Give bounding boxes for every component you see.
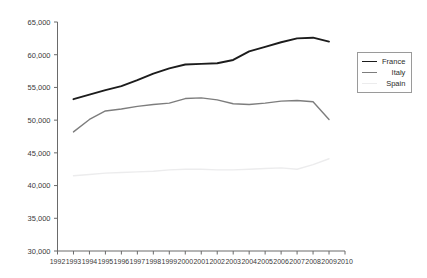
y-tick-label: 65,000 [28,18,51,27]
y-tick-label: 55,000 [28,83,51,92]
x-tick-label: 2001 [193,258,209,265]
chart-legend: FranceItalySpain [357,52,412,93]
chart-axes [58,22,346,251]
legend-swatch-icon [362,72,377,73]
y-tick-label: 60,000 [28,51,51,60]
legend-item-france[interactable]: France [362,56,405,67]
legend-item-label: Spain [382,78,405,89]
line-chart: 30,00035,00040,00045,00050,00055,00060,0… [0,0,427,278]
legend-item-label: France [382,56,405,67]
legend-item-label: Italy [382,67,405,78]
x-tick-label: 1999 [162,258,178,265]
legend-swatch-icon [362,83,377,84]
x-tick-label: 2008 [305,258,321,265]
legend-swatch-icon [362,61,377,62]
x-tick-label: 2010 [337,258,353,265]
x-tick-label: 1992 [50,258,66,265]
y-tick-label: 30,000 [28,247,51,256]
series-line-france [73,38,329,100]
x-tick-label: 2007 [289,258,305,265]
chart-plot-area: 30,00035,00040,00045,00050,00055,00060,0… [0,0,427,278]
y-tick-label: 45,000 [28,149,51,158]
x-tick-label: 1996 [114,258,130,265]
x-tick-label: 2009 [321,258,337,265]
x-tick-label: 1994 [82,258,98,265]
y-tick-label: 50,000 [28,116,51,125]
x-tick-label: 2005 [257,258,273,265]
x-tick-label: 2003 [225,258,241,265]
x-tick-label: 1998 [146,258,162,265]
x-tick-label: 1993 [66,258,82,265]
x-tick-label: 2006 [273,258,289,265]
y-tick-label: 40,000 [28,181,51,190]
x-tick-label: 1997 [130,258,146,265]
legend-item-spain[interactable]: Spain [362,78,405,89]
x-tick-label: 2000 [177,258,193,265]
series-line-italy [73,98,329,132]
x-tick-label: 2004 [241,258,257,265]
series-line-spain [73,159,329,176]
x-tick-label: 1995 [98,258,114,265]
legend-item-italy[interactable]: Italy [362,67,405,78]
y-tick-label: 35,000 [28,214,51,223]
x-tick-label: 2002 [209,258,225,265]
